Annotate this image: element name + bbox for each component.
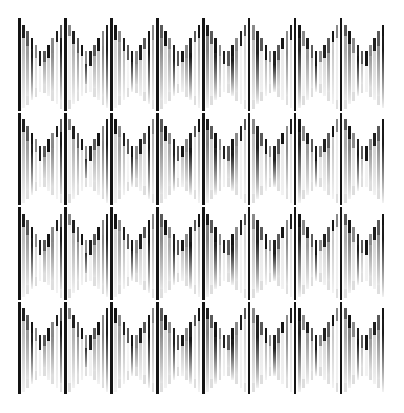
chevron-foot-tick (286, 379, 289, 388)
chevron-cap (323, 328, 326, 341)
chevron-foot-tick (369, 371, 372, 380)
chevron-cap (72, 315, 75, 328)
pattern-bar (340, 302, 343, 395)
chevron-cap (51, 322, 54, 337)
chevron-cap (265, 328, 268, 343)
pattern-bar (68, 308, 71, 392)
chevron-cap (148, 315, 151, 328)
pattern-bar (206, 308, 209, 392)
chevron-foot-tick (168, 375, 171, 384)
chevron-foot-tick (219, 371, 222, 380)
chevron-foot-tick (102, 379, 105, 388)
chevron-foot-tick (60, 383, 63, 392)
chevron-foot-tick (336, 383, 339, 392)
chevron-band (18, 18, 386, 396)
chevron-foot-tick (160, 383, 163, 392)
chevron-cap (327, 322, 330, 337)
chevron-cap (298, 308, 301, 321)
chevron-cap (240, 315, 243, 330)
chevron-foot-tick (93, 371, 96, 380)
chevron-foot-tick (35, 371, 38, 380)
chevron-cap (219, 328, 222, 339)
chevron-cap (43, 335, 46, 346)
chevron-cap (290, 308, 293, 323)
chevron-cap (336, 308, 339, 321)
chevron-cap (106, 308, 109, 319)
chevron-foot-tick (135, 367, 138, 376)
chevron-cap (382, 308, 385, 319)
chevron-cap (357, 328, 360, 339)
chevron-cap (118, 315, 121, 326)
chevron-cap (286, 315, 289, 328)
chevron-cap (223, 335, 226, 348)
chevron-cap (348, 315, 351, 328)
chevron-cap (85, 335, 88, 348)
chevron-foot-tick (194, 379, 197, 388)
chevron-cap (123, 322, 126, 335)
chevron-foot-tick (227, 367, 230, 376)
pattern-bar (106, 308, 109, 392)
chevron-cap (152, 308, 155, 323)
chevron-cap (56, 315, 59, 326)
chevron-cap (206, 308, 209, 319)
chevron-foot-tick (235, 375, 238, 384)
chevron-foot-tick (177, 367, 180, 376)
chevron-cap (93, 328, 96, 339)
chevron-foot-tick (311, 371, 314, 380)
bar-field (18, 18, 386, 396)
pattern-bar (202, 302, 205, 395)
chevron-foot-tick (185, 371, 188, 380)
chevron-cap (373, 322, 376, 335)
chevron-foot-tick (377, 379, 380, 388)
chevron-cap (135, 335, 138, 348)
chevron-cap (302, 315, 305, 330)
chevron-cap (168, 322, 171, 333)
chevron-cap (252, 308, 255, 323)
chevron-foot-tick (26, 379, 29, 388)
chevron-cap (102, 315, 105, 330)
pattern-bar (344, 308, 347, 392)
chevron-cap (194, 315, 197, 326)
chevron-cap (227, 335, 230, 350)
chevron-foot-tick (143, 375, 146, 384)
chevron-foot-tick (152, 383, 155, 392)
chevron-foot-tick (210, 379, 213, 388)
chevron-cap (189, 322, 192, 337)
chevron-cap (352, 322, 355, 337)
chevron-cap (47, 328, 50, 341)
chevron-cap (235, 322, 238, 335)
chevron-cap (160, 308, 163, 321)
pattern-bar (382, 308, 385, 392)
chevron-cap (273, 335, 276, 348)
chevron-cap (26, 315, 29, 330)
chevron-foot-tick (277, 371, 280, 380)
chevron-foot-tick (260, 375, 263, 384)
chevron-cap (173, 328, 176, 341)
chevron-cap (164, 315, 167, 330)
chevron-cap (131, 335, 134, 346)
chevron-cap (311, 328, 314, 341)
chevron-cap (60, 308, 63, 321)
chevron-foot-tick (68, 383, 71, 392)
pattern-bar (64, 302, 67, 395)
chevron-cap (377, 315, 380, 330)
chevron-cap (89, 335, 92, 350)
chevron-cap (256, 315, 259, 326)
chevron-cap (114, 308, 117, 323)
chevron-foot-tick (51, 375, 54, 384)
chevron-cap (77, 322, 80, 337)
chevron-cap (260, 322, 263, 335)
artboard (0, 0, 404, 413)
chevron-cap (281, 322, 284, 333)
pattern-bar (156, 302, 159, 395)
pattern-bar (244, 308, 247, 392)
chevron-cap (210, 315, 213, 328)
chevron-cap (315, 335, 318, 350)
chevron-cap (139, 328, 142, 343)
chevron-cap (306, 322, 309, 333)
chevron-foot-tick (361, 367, 364, 376)
chevron-cap (97, 322, 100, 335)
chevron-cap (361, 335, 364, 348)
chevron-foot-tick (127, 371, 130, 380)
chevron-foot-tick (352, 375, 355, 384)
